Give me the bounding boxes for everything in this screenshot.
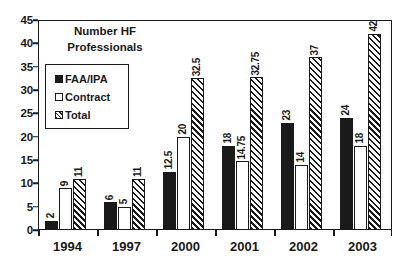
x-tick-label-1997: 1997 xyxy=(112,239,141,254)
x-tick-mark xyxy=(274,230,276,236)
bar-faa-ipa-2003 xyxy=(340,118,353,230)
y-tick-label: 35 xyxy=(21,61,33,73)
y-tick-label: 45 xyxy=(21,14,33,26)
bar-contract-2003 xyxy=(354,146,367,230)
legend-item-faa-ipa: FAA/IPA xyxy=(55,70,128,88)
bar-value-label: 11 xyxy=(133,167,143,177)
bar-total-2001 xyxy=(250,77,263,230)
x-tick-mark xyxy=(97,230,99,236)
bar-faa-ipa-2002 xyxy=(281,123,294,230)
bar-value-label: 18 xyxy=(223,133,233,144)
bar-value-label: 14 xyxy=(296,152,306,163)
chart-title: Number HF Professionals xyxy=(50,24,160,55)
legend-item-total: Total xyxy=(55,106,128,124)
bar-contract-2001 xyxy=(236,161,249,230)
y-axis: 051015202530354045 xyxy=(0,20,33,230)
bar-value-label: 12.5 xyxy=(164,151,174,169)
bar-contract-2000 xyxy=(177,137,190,230)
white-outline-swatch-icon xyxy=(55,93,63,101)
bar-value-label: 42 xyxy=(369,21,379,32)
x-tick-mark xyxy=(333,230,335,236)
bar-value-label: 24 xyxy=(341,105,351,116)
bar-faa-ipa-1994 xyxy=(45,221,58,230)
bar-contract-2002 xyxy=(295,165,308,230)
solid-black-swatch-icon xyxy=(55,75,63,83)
bar-value-label: 14.75 xyxy=(237,136,247,160)
legend-label-total: Total xyxy=(65,109,90,121)
bar-total-2002 xyxy=(309,57,322,230)
bar-value-label: 20 xyxy=(178,124,188,135)
y-tick-label: 20 xyxy=(21,131,33,143)
x-tick-label-2001: 2001 xyxy=(230,239,259,254)
legend-label-contract: Contract xyxy=(65,91,110,103)
bar-contract-1997 xyxy=(118,207,131,230)
bar-faa-ipa-2001 xyxy=(222,146,235,230)
y-tick-label: 15 xyxy=(21,154,33,166)
bar-total-1994 xyxy=(73,179,86,230)
x-tick-label-2000: 2000 xyxy=(171,239,200,254)
bar-value-label: 18 xyxy=(355,133,365,144)
bar-chart: 051015202530354045 2911651112.52032.5181… xyxy=(0,0,415,275)
bar-value-label: 32.5 xyxy=(192,58,202,76)
bar-total-2000 xyxy=(191,78,204,230)
x-tick-mark xyxy=(38,230,40,236)
bar-value-label: 5 xyxy=(119,199,129,204)
x-tick-label-2002: 2002 xyxy=(289,239,318,254)
y-tick-label: 40 xyxy=(21,37,33,49)
bar-contract-1994 xyxy=(59,188,72,230)
bar-faa-ipa-1997 xyxy=(104,202,117,230)
bar-value-label: 9 xyxy=(60,181,70,186)
y-tick-label: 30 xyxy=(21,84,33,96)
bar-value-label: 2 xyxy=(46,213,56,218)
y-tick-label: 25 xyxy=(21,107,33,119)
bar-value-label: 11 xyxy=(74,167,84,177)
x-tick-mark xyxy=(156,230,158,236)
legend-label-faa-ipa: FAA/IPA xyxy=(65,73,108,85)
legend-item-contract: Contract xyxy=(55,88,128,106)
x-tick-label-2003: 2003 xyxy=(348,239,377,254)
bar-faa-ipa-2000 xyxy=(163,172,176,230)
legend: FAA/IPA Contract Total xyxy=(45,64,129,129)
y-tick-label: 10 xyxy=(21,177,33,189)
hatched-swatch-icon xyxy=(55,111,63,119)
x-tick-label-1994: 1994 xyxy=(53,239,82,254)
bar-total-1997 xyxy=(132,179,145,230)
bar-value-label: 32.75 xyxy=(251,52,261,76)
bar-total-2003 xyxy=(368,34,381,230)
bar-value-label: 37 xyxy=(310,45,320,56)
x-tick-mark xyxy=(215,230,217,236)
bar-value-label: 6 xyxy=(105,195,115,200)
x-tick-mark xyxy=(391,230,393,236)
bar-value-label: 23 xyxy=(282,110,292,121)
